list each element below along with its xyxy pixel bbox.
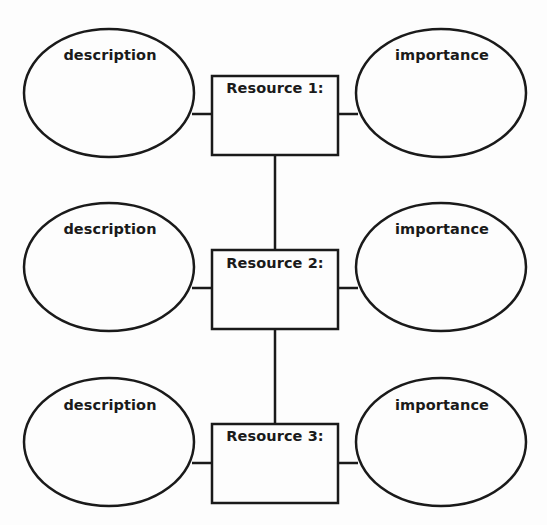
description-label-2: description bbox=[25, 221, 195, 237]
description-label-1: description bbox=[25, 47, 195, 63]
resource-label-2: Resource 2: bbox=[212, 255, 338, 271]
resource-label-3: Resource 3: bbox=[212, 428, 338, 444]
importance-label-1: importance bbox=[357, 47, 527, 63]
resource-label-1: Resource 1: bbox=[212, 80, 338, 96]
importance-label-2: importance bbox=[357, 221, 527, 237]
description-label-3: description bbox=[25, 397, 195, 413]
importance-label-3: importance bbox=[357, 397, 527, 413]
